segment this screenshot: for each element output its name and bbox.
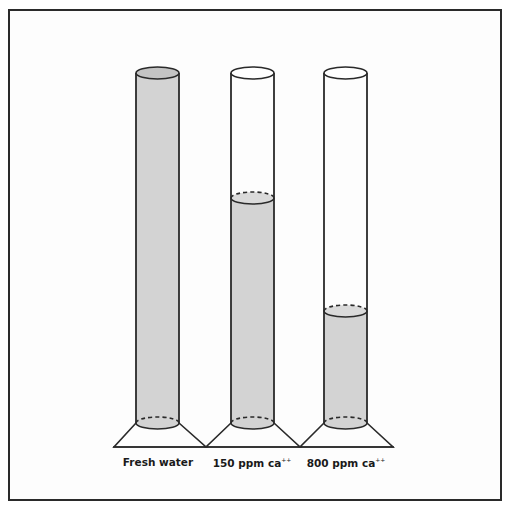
cylinder-top	[324, 67, 367, 79]
label-800ppm: 800 ppm ca++	[291, 456, 401, 469]
cylinder-top	[136, 67, 179, 79]
label-superscript: ++	[281, 456, 291, 463]
cylinder-fresh-water	[136, 67, 179, 429]
cylinder-800ppm	[324, 67, 367, 429]
cylinder-top	[231, 67, 274, 79]
liquid-fill	[231, 198, 274, 423]
label-text: 800 ppm ca	[307, 457, 376, 469]
label-text: Fresh water	[123, 456, 193, 468]
liquid-fill	[136, 73, 179, 423]
label-superscript: ++	[375, 456, 385, 463]
cylinder-150ppm	[231, 67, 274, 429]
label-text: 150 ppm ca	[213, 457, 282, 469]
cylinder-diagram	[0, 0, 511, 516]
liquid-fill	[324, 311, 367, 423]
